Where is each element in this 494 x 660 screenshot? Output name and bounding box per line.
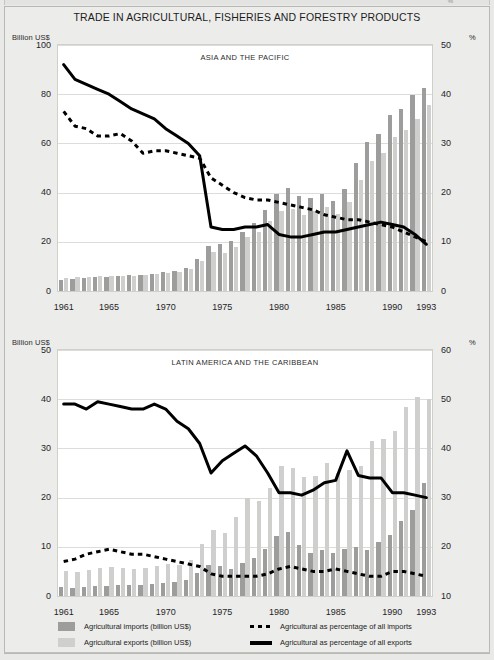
chart1-xtick: 1965 [89, 608, 129, 617]
chart0-ytick-right: 40 [441, 90, 451, 99]
chart0-ytick-left: 100 [13, 41, 51, 50]
chart0-ytick-right: 30 [441, 139, 451, 148]
chart0-xtick: 1970 [146, 303, 186, 312]
footer-rule [4, 652, 490, 653]
chart0-line-layer [58, 45, 432, 291]
chart0-ytick-left: 80 [13, 90, 51, 99]
chart1-ytick-right: 30 [441, 493, 451, 502]
chart0-ytick-right: 0 [441, 287, 446, 296]
chart1-xtick: 1970 [146, 608, 186, 617]
chart1-line-layer [58, 350, 432, 596]
chart0-ytick-left: 40 [13, 188, 51, 197]
chart1-ytick-left: 50 [13, 346, 51, 355]
chart1-xtick: 1993 [406, 608, 446, 617]
chart1-ytick-right: 60 [441, 346, 451, 355]
legend-key-dashed-line [250, 625, 272, 628]
chart1-ytick-right: 10 [441, 592, 451, 601]
chart1-ytick-left: 10 [13, 542, 51, 551]
chart0-xtick: 1975 [202, 303, 242, 312]
page-top-edge: % [4, 0, 490, 5]
chart1-exports-percentage-line [64, 402, 427, 498]
legend-key-solid-line [250, 641, 272, 645]
chart1-ytick-right: 50 [441, 395, 451, 404]
chart0-ytick-right: 20 [441, 188, 451, 197]
chart0-xtick: 1985 [316, 303, 356, 312]
legend-label-imports: Agricultural imports (billion US$) [84, 622, 191, 632]
chart1-imports-percentage-line [64, 549, 427, 576]
chart1-xtick: 1980 [259, 608, 299, 617]
chart1-xtick: 1975 [202, 608, 242, 617]
chart0-xtick: 1961 [44, 303, 84, 312]
chart0-ytick-left: 20 [13, 237, 51, 246]
chart0-xtick: 1980 [259, 303, 299, 312]
chart0-ytick-left: 60 [13, 139, 51, 148]
legend-swatch-exports [58, 638, 75, 647]
chart0-xtick: 1965 [89, 303, 129, 312]
page-root: % TRADE IN AGRICULTURAL, FISHERIES AND F… [0, 0, 494, 660]
legend-label-exports: Agricultural exports (billion US$) [84, 638, 191, 648]
legend-label-exports-percentage: Agricultural as percentage of all export… [280, 638, 412, 648]
chart1-ytick-left: 40 [13, 395, 51, 404]
chart0-plot-area: ASIA AND THE PACIFIC [57, 44, 433, 292]
chart0-ytick-right: 50 [441, 41, 451, 50]
chart1-xtick: 1961 [44, 608, 84, 617]
chart1-ytick-right: 20 [441, 542, 451, 551]
chart1-ytick-right: 40 [441, 444, 451, 453]
legend-swatch-imports [58, 622, 75, 631]
chart0-xtick: 1993 [406, 303, 446, 312]
chart1-right-axis-unit: % [469, 338, 476, 347]
legend-label-imports-percentage: Agricultural as percentage of all import… [280, 622, 412, 632]
chart0-ytick-left: 0 [13, 287, 51, 296]
chart0-imports-percentage-line [64, 111, 427, 241]
chart1-ytick-left: 20 [13, 493, 51, 502]
page-title: TRADE IN AGRICULTURAL, FISHERIES AND FOR… [0, 11, 494, 23]
chart1-xtick: 1985 [316, 608, 356, 617]
chart0-right-axis-unit: % [469, 33, 476, 42]
chart0-ytick-right: 10 [441, 237, 451, 246]
chart0-exports-percentage-line [64, 65, 427, 245]
chart1-ytick-left: 0 [13, 592, 51, 601]
chart1-plot-area: LATIN AMERICA AND THE CARIBBEAN [57, 349, 433, 597]
page-top-mark: % [448, 0, 453, 5]
chart1-ytick-left: 30 [13, 444, 51, 453]
